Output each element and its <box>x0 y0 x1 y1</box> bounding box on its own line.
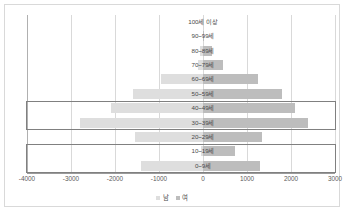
chart-legend: 남여 <box>5 193 339 202</box>
category-label: 60~69세 <box>192 72 215 86</box>
pyramid-row: 10~19세 <box>27 144 335 158</box>
category-label: 40~49세 <box>192 101 215 115</box>
pyramid-row: 50~59세 <box>27 87 335 101</box>
pyramid-row: 70~79세 <box>27 58 335 72</box>
x-tick-label: 1000 <box>240 175 254 182</box>
bar-female <box>203 161 260 171</box>
x-tick-label: -3000 <box>63 175 79 182</box>
category-label: 10~19세 <box>192 144 215 158</box>
pyramid-row: 20~29세 <box>27 130 335 144</box>
x-tick-label: -1000 <box>151 175 167 182</box>
legend-item[interactable]: 남 <box>156 193 169 202</box>
pyramid-row: 30~39세 <box>27 116 335 130</box>
category-label: 20~29세 <box>192 130 215 144</box>
legend-swatch-icon <box>176 196 180 200</box>
category-label: 50~59세 <box>192 87 215 101</box>
legend-item[interactable]: 여 <box>176 193 189 202</box>
pyramid-row: 100세 이상 <box>27 15 335 29</box>
chart-frame: 100세 이상90~99세80~89세70~79세60~69세50~59세40~… <box>4 4 340 207</box>
x-tick-label: 0 <box>201 175 205 182</box>
category-label: 30~39세 <box>192 116 215 130</box>
category-label: 100세 이상 <box>188 15 217 29</box>
gridline-3000 <box>335 15 336 173</box>
x-tick-label: 3000 <box>328 175 342 182</box>
plot-area: 100세 이상90~99세80~89세70~79세60~69세50~59세40~… <box>27 15 335 173</box>
x-tick-label: -2000 <box>107 175 123 182</box>
x-axis-line <box>27 173 335 174</box>
category-label: 90~99세 <box>192 29 215 43</box>
legend-label: 여 <box>182 193 188 202</box>
bar-male <box>141 161 203 171</box>
bar-female <box>203 89 282 99</box>
category-label: 0~9세 <box>195 159 211 173</box>
pyramid-row: 60~69세 <box>27 72 335 86</box>
bar-female <box>203 118 308 128</box>
legend-label: 남 <box>163 193 169 202</box>
bar-male <box>111 103 203 113</box>
x-tick-label: -4000 <box>19 175 35 182</box>
legend-swatch-icon <box>156 196 160 200</box>
bar-male <box>80 118 203 128</box>
pyramid-row: 0~9세 <box>27 159 335 173</box>
bar-female <box>203 103 295 113</box>
pyramid-row: 90~99세 <box>27 29 335 43</box>
category-label: 70~79세 <box>192 58 215 72</box>
pyramid-row: 40~49세 <box>27 101 335 115</box>
x-axis-tick-labels: -4000-3000-2000-10000100020003000 <box>27 175 335 187</box>
category-label: 80~89세 <box>192 44 215 58</box>
pyramid-row: 80~89세 <box>27 44 335 58</box>
x-tick-label: 2000 <box>284 175 298 182</box>
